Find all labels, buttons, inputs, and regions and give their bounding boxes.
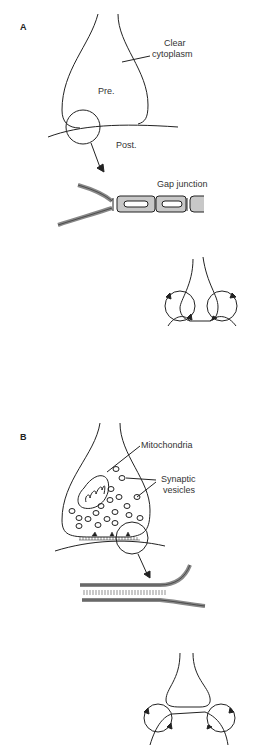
label-post: Post. [116,140,137,151]
synaptic-cleft-density [79,532,140,540]
magnify-circle-b [116,522,148,554]
panel-label-a: A [20,22,27,32]
arrow-head-icon [97,164,104,172]
schematic-electrical-synapse [165,257,237,326]
electrical-synapse-panel-a [48,14,237,326]
gap-junction-enlarged [58,185,204,225]
label-clear-cytoplasm-line1: Clear [164,38,186,49]
postsynaptic-membrane-b [55,541,165,551]
label-synaptic-vesicles-line2: vesicles [163,485,195,496]
chemical-cleft-enlarged [80,565,205,606]
label-gap-junction: Gap junction [157,179,208,190]
panel-label-b: B [20,432,27,442]
label-clear-cytoplasm-line2: cytoplasm [152,49,193,60]
mitochondrion [78,476,109,509]
schematic-chemical-synapse [144,653,235,745]
presynaptic-terminal-outline-a-right [118,14,148,124]
label-pre: Pre. [98,86,115,97]
presynaptic-terminal-outline-a [62,14,98,128]
postsynaptic-membrane-a [48,125,178,137]
arrow-head-icon [144,571,150,578]
chemical-synapse-panel-b [55,423,235,745]
synapse-diagram [0,0,265,746]
label-synaptic-vesicles-line1: Synaptic [161,474,196,485]
label-mitochondria: Mitochondria [141,440,193,451]
